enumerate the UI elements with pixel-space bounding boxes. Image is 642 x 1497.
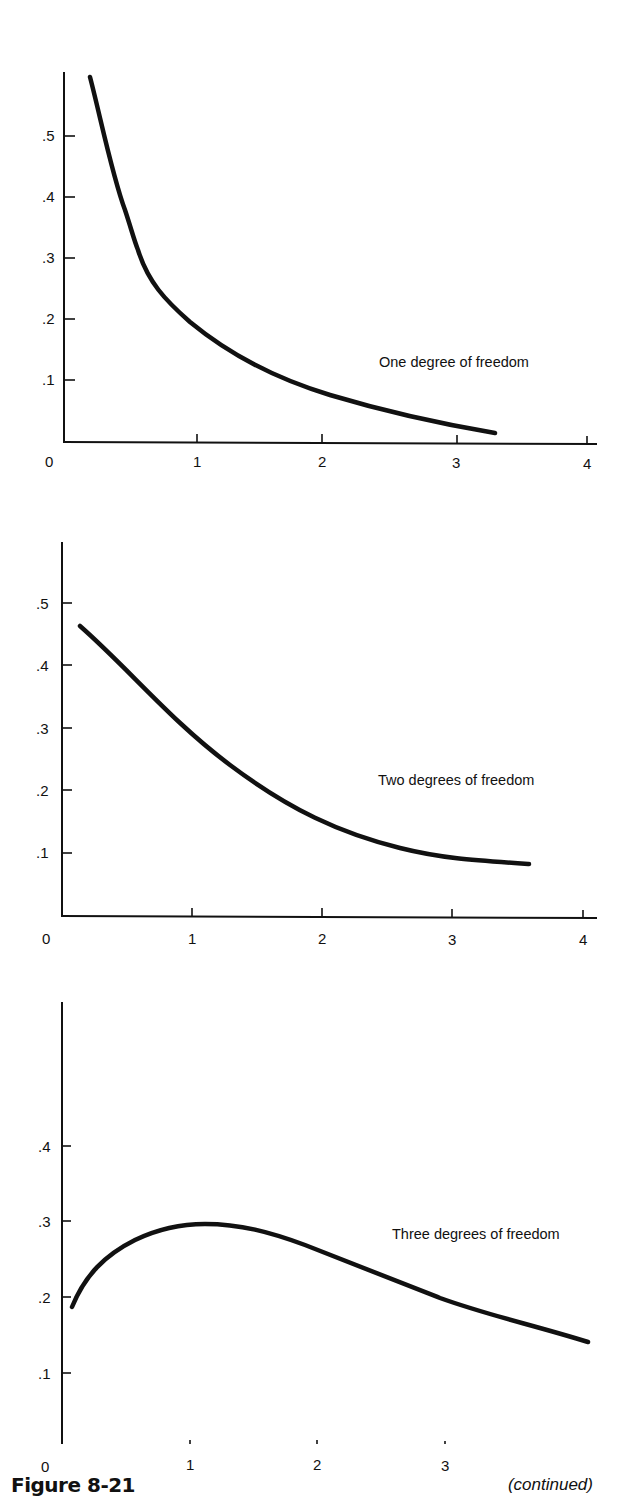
series-label: Two degrees of freedom — [378, 772, 534, 788]
y-tick-label: .4 — [42, 188, 55, 205]
figure-continued: (continued) — [508, 1475, 593, 1495]
y-tick-label: .3 — [36, 720, 49, 737]
y-tick-label: .2 — [42, 310, 55, 327]
y-tick-label: .2 — [38, 1289, 51, 1306]
chart-one-degree: .5 .4 .3 .2 .1 0 1 2 3 4 One degree of f… — [0, 0, 642, 480]
x-tick-label: 0 — [42, 930, 50, 947]
chart-three-degrees: .4 .3 .2 .1 Three degrees of freedom — [0, 960, 642, 1444]
y-tick-label: .3 — [38, 1213, 51, 1230]
chart-two-degrees-plot: .5 .4 .3 .2 .1 0 1 2 3 4 Two degrees of … — [0, 530, 642, 960]
x-tick-label: 1 — [188, 930, 196, 947]
x-tick-label: 4 — [583, 455, 591, 472]
y-tick-label: .1 — [42, 371, 55, 388]
y-tick-label: .1 — [38, 1365, 51, 1382]
y-tick-label: .1 — [36, 844, 49, 861]
y-tick-label: .3 — [42, 249, 55, 266]
x-tick-label: 1 — [193, 453, 201, 470]
figure-number: Figure 8-21 — [11, 1473, 135, 1497]
series-curve — [80, 626, 529, 864]
x-tick-label: 0 — [45, 453, 53, 470]
x-axis — [63, 442, 597, 444]
y-tick-label: .5 — [42, 127, 55, 144]
y-ticks — [64, 136, 75, 380]
x-tick-label: 3 — [448, 931, 456, 948]
figure-caption: Figure 8-21 (continued) — [11, 1455, 631, 1485]
y-tick-label: .4 — [36, 657, 49, 674]
series-label: One degree of freedom — [379, 354, 529, 370]
y-ticks — [62, 603, 72, 853]
series-curve — [90, 77, 495, 433]
x-tick-label: 2 — [318, 453, 326, 470]
y-tick-label: .5 — [36, 595, 49, 612]
y-ticks — [62, 1146, 71, 1373]
x-tick-label: 3 — [452, 454, 460, 471]
x-axis — [61, 916, 597, 918]
series-label: Three degrees of freedom — [392, 1226, 560, 1242]
chart-one-degree-plot: .5 .4 .3 .2 .1 0 1 2 3 4 One degree of f… — [0, 0, 642, 480]
y-tick-label: .2 — [36, 782, 49, 799]
chart-three-degrees-plot: .4 .3 .2 .1 Three degrees of freedom — [0, 960, 642, 1444]
chart-two-degrees: .5 .4 .3 .2 .1 0 1 2 3 4 Two degrees of … — [0, 530, 642, 960]
x-tick-label: 4 — [579, 931, 587, 948]
x-tick-label: 2 — [318, 930, 326, 947]
y-tick-label: .4 — [38, 1138, 51, 1155]
